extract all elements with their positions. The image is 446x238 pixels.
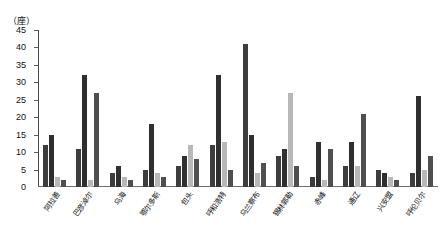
- bar-group: [38, 30, 71, 187]
- bar: [410, 173, 415, 187]
- y-axis-tick: [34, 152, 38, 153]
- bar: [343, 166, 348, 187]
- bar-group: [405, 30, 438, 187]
- bar-group: [271, 30, 304, 187]
- y-axis-tick-label: 20: [0, 112, 26, 122]
- bar: [228, 170, 233, 187]
- x-axis-label-cell: 包头: [171, 189, 204, 237]
- bar: [76, 149, 81, 187]
- bar: [388, 177, 393, 187]
- y-axis-tick: [34, 135, 38, 136]
- y-axis-tick: [34, 30, 38, 31]
- bar: [82, 75, 87, 187]
- bar: [88, 180, 93, 187]
- x-axis-label-cell: 阿拉善: [38, 189, 71, 237]
- bar: [55, 177, 60, 187]
- y-axis-tick: [34, 82, 38, 83]
- bar: [161, 177, 166, 187]
- x-axis-tick-label: 呼和浩特: [205, 191, 227, 218]
- bar: [282, 149, 287, 187]
- bar: [122, 177, 127, 187]
- bar-group: [138, 30, 171, 187]
- bar: [116, 166, 121, 187]
- bar: [49, 135, 54, 187]
- x-axis-tick-label: 包头: [180, 191, 194, 207]
- bar-group: [338, 30, 371, 187]
- bar-groups: [38, 30, 438, 187]
- bar: [61, 180, 66, 187]
- bar: [355, 166, 360, 187]
- bar: [382, 173, 387, 187]
- bar: [328, 149, 333, 187]
- y-axis-tick: [34, 47, 38, 48]
- plot-area: [38, 30, 438, 187]
- bar: [255, 173, 260, 187]
- bar: [194, 159, 199, 187]
- x-axis-tick-label: 锡林郭勒: [272, 191, 294, 218]
- y-axis-tick-label: 30: [0, 77, 26, 87]
- x-axis-tick-label: 乌海: [113, 191, 127, 207]
- bar-group: [105, 30, 138, 187]
- bar-group: [171, 30, 204, 187]
- bar: [176, 166, 181, 187]
- bar: [222, 142, 227, 187]
- y-axis-tick-labels: 454035302520151050: [0, 30, 32, 187]
- bar-group: [371, 30, 404, 187]
- x-axis-label-cell: 呼伦贝尔: [405, 189, 438, 237]
- bar: [188, 145, 193, 187]
- bar: [349, 142, 354, 187]
- bar: [143, 170, 148, 187]
- bar: [128, 180, 133, 187]
- bar: [261, 163, 266, 187]
- bar-group: [205, 30, 238, 187]
- bar: [422, 170, 427, 187]
- y-axis-tick-label: 40: [0, 42, 26, 52]
- bar-group: [71, 30, 104, 187]
- y-axis-tick-label: 10: [0, 147, 26, 157]
- y-axis-tick-label: 45: [0, 25, 26, 35]
- x-axis-tick-label: 兴安盟: [376, 191, 394, 213]
- x-axis-label-cell: 锡林郭勒: [271, 189, 304, 237]
- x-axis-tick-label: 赤峰: [313, 191, 327, 207]
- bar: [310, 177, 315, 187]
- bar: [155, 173, 160, 187]
- x-axis-label-cell: 乌兰察布: [238, 189, 271, 237]
- y-axis-tick-label: 0: [0, 182, 26, 192]
- x-axis-tick-label: 鄂尔多斯: [139, 191, 161, 218]
- x-axis-tick-labels: 阿拉善巴彦淖尔乌海鄂尔多斯包头呼和浩特乌兰察布锡林郭勒赤峰通辽兴安盟呼伦贝尔: [38, 189, 438, 237]
- y-axis-tick-label: 25: [0, 95, 26, 105]
- bar: [428, 156, 433, 187]
- bar-group: [305, 30, 338, 187]
- bar: [182, 156, 187, 187]
- x-axis-label-cell: 通辽: [338, 189, 371, 237]
- y-axis-tick: [34, 65, 38, 66]
- bar: [243, 44, 248, 187]
- bar: [149, 124, 154, 187]
- y-axis-tick: [34, 170, 38, 171]
- bar: [43, 145, 48, 187]
- x-axis-label-cell: 鄂尔多斯: [138, 189, 171, 237]
- x-axis-label-cell: 乌海: [105, 189, 138, 237]
- y-axis-tick-label: 35: [0, 60, 26, 70]
- y-axis-tick: [34, 100, 38, 101]
- bar: [361, 114, 366, 187]
- bar: [416, 96, 421, 187]
- y-axis-tick: [34, 117, 38, 118]
- bar: [216, 75, 221, 187]
- bar: [288, 93, 293, 187]
- x-axis-tick-label: 通辽: [347, 191, 361, 207]
- x-axis-tick-label: 乌兰察布: [239, 191, 261, 218]
- bar: [376, 170, 381, 187]
- bar: [276, 156, 281, 187]
- bar: [110, 173, 115, 187]
- y-axis-tick-label: 15: [0, 130, 26, 140]
- x-axis-label-cell: 兴安盟: [371, 189, 404, 237]
- x-axis-label-cell: 赤峰: [305, 189, 338, 237]
- bar: [316, 142, 321, 187]
- bar: [210, 145, 215, 187]
- bar: [249, 135, 254, 187]
- bar: [94, 93, 99, 187]
- bar: [322, 180, 327, 187]
- x-axis-tick-label: 呼伦贝尔: [405, 191, 427, 218]
- x-axis-label-cell: 呼和浩特: [205, 189, 238, 237]
